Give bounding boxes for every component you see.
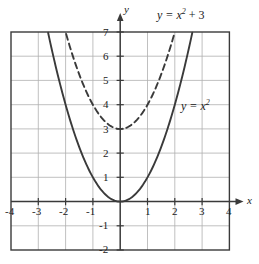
x-tick-label-minus-1: -1 (86, 206, 95, 217)
x-tick-label-1: 1 (145, 206, 151, 217)
label-base-1: y = x (157, 8, 182, 22)
y-tick-label-minus-2: -2 (99, 244, 108, 255)
y-tick-label-6: 6 (103, 51, 109, 62)
y-tick-label-7: 7 (103, 27, 109, 38)
y-tick-label-1: 1 (103, 172, 109, 183)
y-tick-label-3: 3 (103, 124, 109, 135)
y-axis-name: y (124, 4, 129, 15)
label-suffix-1: + 3 (186, 8, 205, 22)
y-tick-label-2: 2 (103, 148, 109, 159)
label-y-equals-x-squared: y = x2 (181, 100, 210, 112)
y-tick-label-minus-1: -1 (99, 220, 108, 231)
x-axis-name: x (247, 195, 252, 206)
label-exponent-2: 2 (206, 98, 210, 107)
coordinate-plane-svg (0, 0, 259, 264)
y-axis (117, 13, 124, 250)
graph-figure: 7 6 5 4 3 2 1 -1 -2 -4 -3 -2 -1 1 2 3 4 … (0, 0, 259, 264)
y-tick-label-4: 4 (103, 99, 109, 110)
x-tick-label-3: 3 (199, 206, 205, 217)
label-y-equals-x-squared-plus-3: y = x2 + 3 (157, 9, 205, 21)
y-tick-label-5: 5 (103, 75, 109, 86)
x-tick-label-minus-2: -2 (59, 206, 68, 217)
x-tick-label-2: 2 (172, 206, 178, 217)
x-tick-label-minus-4: -4 (5, 206, 14, 217)
x-tick-label-4: 4 (226, 206, 232, 217)
label-base-2: y = x (181, 99, 206, 113)
x-tick-label-minus-3: -3 (32, 206, 41, 217)
